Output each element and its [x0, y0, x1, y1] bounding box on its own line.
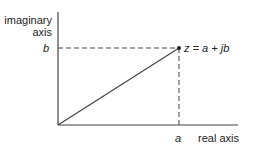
imaginary-axis-label-line2: axis [0, 26, 52, 38]
point-z-marker [177, 46, 181, 50]
a-tick-label: a [175, 132, 181, 144]
real-axis-label: real axis [198, 132, 239, 144]
vector-line [58, 48, 179, 125]
b-tick-label: b [43, 42, 49, 54]
point-z-label: z = a + jb [184, 42, 229, 54]
imaginary-axis-label-line1: imaginary [0, 14, 52, 26]
